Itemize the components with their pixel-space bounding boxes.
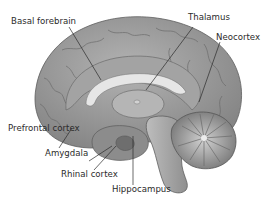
label-prefrontal-cortex: Prefrontal cortex <box>8 124 80 133</box>
label-neocortex: Neocortex <box>216 33 260 42</box>
label-rhinal-cortex: Rhinal cortex <box>61 170 118 179</box>
label-thalamus: Thalamus <box>188 13 230 22</box>
amygdala-region <box>116 136 134 151</box>
thalamus-nucleus <box>134 100 140 104</box>
brain-diagram: Basal forebrain Thalamus Neocortex Prefr… <box>0 0 266 202</box>
brain-illustration <box>0 0 266 202</box>
label-hippocampus: Hippocampus <box>112 185 171 194</box>
label-basal-forebrain: Basal forebrain <box>11 17 76 26</box>
label-amygdala: Amygdala <box>45 149 88 158</box>
